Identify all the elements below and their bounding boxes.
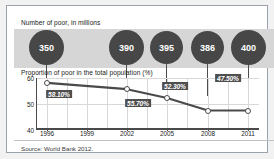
data-label-1996: 58.10% bbox=[46, 90, 72, 98]
xtick-label-1996: 1996 bbox=[40, 130, 54, 137]
ytick-label-60: 60 bbox=[27, 75, 34, 82]
source-note: Source: World Bank 2012. bbox=[21, 145, 93, 152]
data-label-2005: 52.30% bbox=[162, 82, 188, 90]
chart-frame: Number of poor, in millions 350 390 395 … bbox=[6, 5, 268, 153]
data-point-2005 bbox=[164, 95, 170, 101]
xtick-label-2002: 2002 bbox=[120, 130, 134, 137]
bubble-2002: 390 bbox=[109, 30, 144, 65]
top-section-title: Number of poor, in millions bbox=[21, 19, 100, 26]
bubble-1996: 350 bbox=[29, 30, 64, 65]
ytick-label-40: 40 bbox=[27, 127, 34, 134]
data-point-2002 bbox=[124, 86, 130, 92]
bubble-label-1996: 350 bbox=[39, 43, 54, 53]
bubble-label-2005: 395 bbox=[159, 43, 174, 53]
bubble-label-2011: 400 bbox=[241, 43, 256, 53]
data-label-2008: 47.50% bbox=[215, 74, 241, 82]
footer-divider bbox=[14, 140, 274, 141]
bubble-2011: 400 bbox=[231, 30, 266, 65]
bottom-section-title: Proportion of poor in the total populati… bbox=[21, 69, 153, 76]
xtick-label-1999: 1999 bbox=[80, 130, 94, 137]
xtick-label-2008: 2008 bbox=[201, 130, 215, 137]
bubble-2008: 386 bbox=[191, 31, 224, 64]
bubble-2005: 395 bbox=[150, 31, 183, 64]
ytick-label-50: 50 bbox=[27, 101, 34, 108]
bubble-label-2008: 386 bbox=[200, 43, 215, 53]
xtick-label-2011: 2011 bbox=[241, 130, 255, 137]
bubble-label-2002: 390 bbox=[119, 43, 134, 53]
xtick-label-2005: 2005 bbox=[160, 130, 174, 137]
data-point-2008 bbox=[205, 108, 211, 114]
data-label-2002: 55.70% bbox=[125, 99, 151, 107]
line-chart-plot-area: 60 50 40 1996 1999 2002 2005 2008 2011 bbox=[36, 78, 259, 130]
data-point-1996 bbox=[44, 80, 50, 86]
data-point-2011 bbox=[245, 108, 251, 114]
infographic-figure: Number of poor, in millions 350 390 395 … bbox=[0, 0, 274, 159]
